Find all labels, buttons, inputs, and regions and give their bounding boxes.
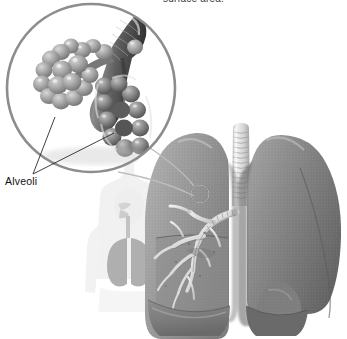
top-caption-text: surface area. <box>163 0 224 4</box>
lung-right-intact <box>238 135 341 336</box>
lung-left-cutaway <box>145 133 238 339</box>
silhouette-trachea <box>126 216 130 238</box>
anatomy-illustration-svg <box>0 0 347 339</box>
illustration-canvas: surface area. Alveoli <box>0 0 347 339</box>
right-lung-texture <box>247 135 341 314</box>
left-arm <box>85 226 100 293</box>
lung-diagram <box>145 123 341 339</box>
alveoli-label: Alveoli <box>5 176 37 187</box>
magnified-inset <box>5 2 177 174</box>
